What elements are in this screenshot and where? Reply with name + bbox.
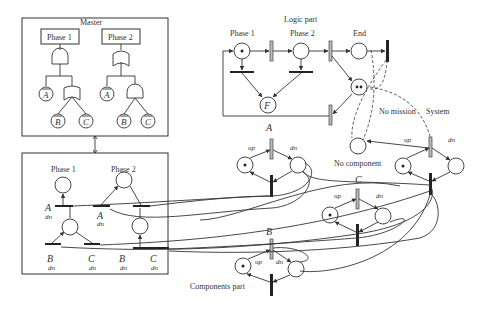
svg-text:dn: dn (89, 264, 97, 272)
component-b: B up dn Components part (190, 226, 304, 296)
svg-text:A: A (42, 90, 49, 100)
svg-text:End: End (353, 29, 366, 38)
svg-text:C: C (150, 253, 157, 264)
and-gate-icon (124, 84, 148, 114)
component-a: A up dn (237, 122, 306, 197)
master-phase2-label: Phase 2 (108, 33, 133, 42)
place-resources (351, 79, 367, 95)
svg-text:up: up (255, 258, 263, 266)
component-c: C up dn (322, 174, 391, 246)
svg-text:dn: dn (448, 136, 456, 144)
master-box: Master Phase 1 Phase 2 A B C (22, 18, 168, 136)
svg-text:B: B (119, 253, 125, 264)
svg-text:A: A (44, 202, 52, 213)
svg-text:C: C (83, 117, 90, 127)
and-gate-icon (46, 44, 72, 86)
svg-text:Logic part: Logic part (284, 15, 318, 24)
place-no-component (350, 138, 366, 154)
svg-text:dn: dn (276, 258, 284, 266)
svg-text:A: A (265, 122, 273, 133)
place-end (351, 43, 367, 59)
svg-text:B: B (47, 253, 53, 264)
svg-text:F: F (263, 100, 271, 111)
svg-text:Phase 1: Phase 1 (230, 29, 255, 38)
svg-text:up: up (248, 144, 256, 152)
svg-text:dn: dn (120, 264, 128, 272)
svg-text:B: B (266, 226, 272, 237)
svg-text:dn: dn (97, 220, 105, 228)
svg-text:dn: dn (48, 264, 56, 272)
svg-text:dn: dn (376, 192, 384, 200)
svg-text:C: C (145, 117, 152, 127)
svg-text:dn: dn (151, 264, 159, 272)
or-gate-icon (107, 44, 135, 86)
svg-text:Components part: Components part (190, 282, 246, 291)
svg-text:dn: dn (45, 213, 53, 221)
svg-text:A: A (103, 90, 110, 100)
svg-text:B: B (55, 117, 61, 127)
or-gate-icon (58, 86, 86, 114)
svg-text:System: System (426, 107, 450, 116)
master-title: Master (80, 18, 103, 27)
place-phase2 (293, 43, 309, 59)
svg-text:dn: dn (290, 144, 298, 152)
svg-text:Phase 1: Phase 1 (51, 165, 76, 174)
master-phase1-label: Phase 1 (47, 33, 72, 42)
logic-part: Logic part Phase 1 Phase 2 End F (223, 15, 464, 195)
svg-text:up: up (404, 136, 412, 144)
svg-text:Phase 2: Phase 2 (290, 29, 315, 38)
svg-text:B: B (121, 117, 127, 127)
petri-net-diagram: Master Phase 1 Phase 2 A B C (0, 0, 480, 309)
phase-block: Phase 1 Phase 2 A dn A dn B dn C dn B dn… (22, 153, 169, 274)
svg-text:C: C (88, 253, 95, 264)
svg-text:No component: No component (334, 159, 382, 168)
svg-text:up: up (334, 192, 342, 200)
svg-text:No mission: No mission (379, 107, 416, 116)
